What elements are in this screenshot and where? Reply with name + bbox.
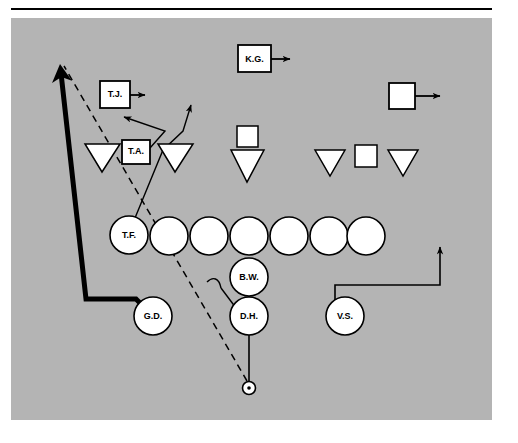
defender-right-inner-box[interactable] bbox=[355, 145, 377, 167]
offensive-lineman-7[interactable] bbox=[347, 217, 385, 255]
offensive-lineman-tf[interactable]: T.F. bbox=[110, 216, 148, 254]
offensive-back-vs[interactable]: V.S. bbox=[326, 297, 364, 335]
offensive-back-gd-label: G.D. bbox=[144, 311, 163, 321]
defender-dl-3[interactable] bbox=[231, 150, 264, 182]
defender-kg[interactable]: K.G. bbox=[238, 45, 271, 72]
offensive-back-bw-label: B.W. bbox=[239, 272, 259, 282]
offensive-lineman-6[interactable] bbox=[310, 217, 348, 255]
defender-dl-5[interactable] bbox=[388, 150, 418, 176]
offensive-back-vs-label: V.S. bbox=[337, 311, 353, 321]
play-diagram-svg: K.G. T.J. bbox=[0, 0, 518, 443]
offensive-lineman-2[interactable] bbox=[150, 217, 188, 255]
defender-dl-2[interactable] bbox=[158, 144, 193, 172]
defender-dl-1[interactable] bbox=[85, 144, 120, 172]
route-vs-motion bbox=[335, 247, 440, 303]
defender-tj-label: T.J. bbox=[108, 89, 123, 99]
defender-ta-label: T.A. bbox=[128, 146, 144, 156]
offensive-back-bw[interactable]: B.W. bbox=[230, 258, 268, 296]
offensive-lineman-5[interactable] bbox=[270, 217, 308, 255]
offensive-lineman-tf-label: T.F. bbox=[122, 230, 136, 240]
offensive-lineman-4[interactable] bbox=[230, 217, 268, 255]
offensive-back-dh[interactable]: D.H. bbox=[230, 297, 268, 335]
defender-ta[interactable]: T.A. bbox=[122, 140, 150, 164]
defender-tj[interactable]: T.J. bbox=[100, 81, 130, 108]
defender-middle-box[interactable] bbox=[237, 126, 258, 147]
offensive-back-gd[interactable]: G.D. bbox=[134, 297, 172, 335]
offensive-lineman-3[interactable] bbox=[190, 217, 228, 255]
ball-spot-marker bbox=[243, 382, 256, 395]
defender-dl-4[interactable] bbox=[315, 150, 345, 176]
defender-right-outside[interactable] bbox=[389, 83, 415, 109]
defender-kg-label: K.G. bbox=[245, 54, 264, 64]
play-diagram-root: K.G. T.J. bbox=[0, 0, 518, 443]
offensive-back-dh-label: D.H. bbox=[240, 311, 258, 321]
